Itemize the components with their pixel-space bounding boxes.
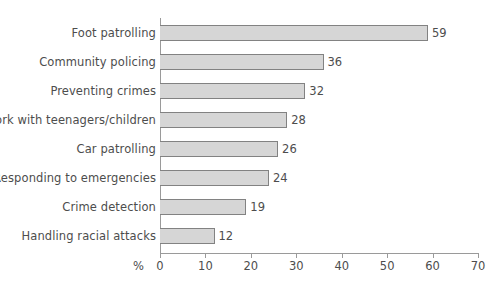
x-axis-tick-label: 30	[289, 259, 304, 273]
bar-value-label: 59	[432, 26, 447, 40]
bar-value-label: 28	[291, 113, 306, 127]
bar	[160, 112, 287, 128]
category-label: Car patrolling	[77, 142, 156, 156]
x-axis-tick-label: 0	[156, 259, 163, 273]
bar-row: Community policing36	[0, 47, 488, 76]
category-label: Work with teenagers/children	[0, 113, 156, 127]
bar	[160, 199, 246, 215]
x-axis-tick	[160, 253, 161, 258]
x-axis-line	[160, 253, 478, 254]
bar	[160, 141, 278, 157]
x-axis-tick-label: 10	[198, 259, 213, 273]
bar-rows: Foot patrolling59Community policing36Pre…	[0, 18, 488, 250]
bar-row: Handling racial attacks12	[0, 221, 488, 250]
bar-value-label: 26	[282, 142, 297, 156]
bar-row: Preventing crimes32	[0, 76, 488, 105]
x-axis-tick-label: 60	[425, 259, 440, 273]
bar	[160, 170, 269, 186]
category-label: Community policing	[39, 55, 156, 69]
category-label: Preventing crimes	[50, 84, 156, 98]
x-axis-tick	[205, 253, 206, 258]
bar-value-label: 24	[273, 171, 288, 185]
category-label: Handling racial attacks	[22, 229, 157, 243]
bar-chart: Statistics Foot patrolling59Community po…	[0, 0, 488, 285]
x-axis-tick-label: 40	[334, 259, 349, 273]
x-axis-tick	[433, 253, 434, 258]
bar-value-label: 36	[328, 55, 343, 69]
bar	[160, 25, 428, 41]
category-label: Foot patrolling	[72, 26, 156, 40]
category-label: Responding to emergencies	[0, 171, 156, 185]
bar	[160, 83, 305, 99]
bar-row: Car patrolling26	[0, 134, 488, 163]
x-axis-tick-label: 70	[471, 259, 486, 273]
bar-value-label: 12	[219, 229, 234, 243]
bar	[160, 54, 324, 70]
x-axis-tick	[342, 253, 343, 258]
x-axis-tick-label: 50	[380, 259, 395, 273]
x-axis-unit-label: %	[133, 259, 144, 273]
bar-row: Foot patrolling59	[0, 18, 488, 47]
x-axis-tick	[478, 253, 479, 258]
x-axis-tick	[387, 253, 388, 258]
bar-row: Responding to emergencies24	[0, 163, 488, 192]
category-label: Crime detection	[62, 200, 156, 214]
x-axis-tick	[251, 253, 252, 258]
bar-row: Work with teenagers/children28	[0, 105, 488, 134]
bar-value-label: 32	[309, 84, 324, 98]
clipped-chart-title: Statistics	[150, 0, 350, 1]
bar-row: Crime detection19	[0, 192, 488, 221]
plot-area: Statistics Foot patrolling59Community po…	[0, 0, 488, 285]
x-axis-tick-label: 20	[244, 259, 259, 273]
x-axis-tick	[296, 253, 297, 258]
bar-value-label: 19	[250, 200, 265, 214]
bar	[160, 228, 215, 244]
